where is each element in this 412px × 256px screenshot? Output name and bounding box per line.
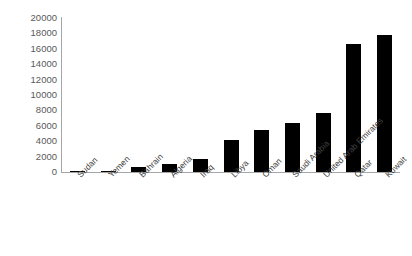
bar-slot: [193, 18, 208, 172]
y-tick-label: 10000: [0, 90, 57, 100]
bar-slot: [285, 18, 300, 172]
y-tick-label: 12000: [0, 75, 57, 85]
y-tick-label: 20000: [0, 13, 57, 23]
y-tick-label: 2000: [0, 152, 57, 162]
y-axis-tick-labels: 0200040006000800010000120001400016000180…: [0, 0, 57, 256]
y-tick-label: 6000: [0, 121, 57, 131]
y-tick-label: 8000: [0, 106, 57, 116]
bar-slot: [101, 18, 116, 172]
bar-slot: [131, 18, 146, 172]
x-axis-category-labels: SudanYemenBahrainAlgeriaIraqLibyaOmanSau…: [62, 173, 400, 256]
bar-slot: [377, 18, 392, 172]
bar-slot: [70, 18, 85, 172]
bar-chart: 0200040006000800010000120001400016000180…: [0, 0, 412, 256]
y-tick-label: 14000: [0, 59, 57, 69]
bar-slot: [254, 18, 269, 172]
bar-slot: [224, 18, 239, 172]
y-tick-label: 0: [0, 167, 57, 177]
y-tick-label: 18000: [0, 29, 57, 39]
bar-slot: [162, 18, 177, 172]
y-tick-label: 4000: [0, 136, 57, 146]
bar: [377, 35, 392, 172]
y-tick-label: 16000: [0, 44, 57, 54]
